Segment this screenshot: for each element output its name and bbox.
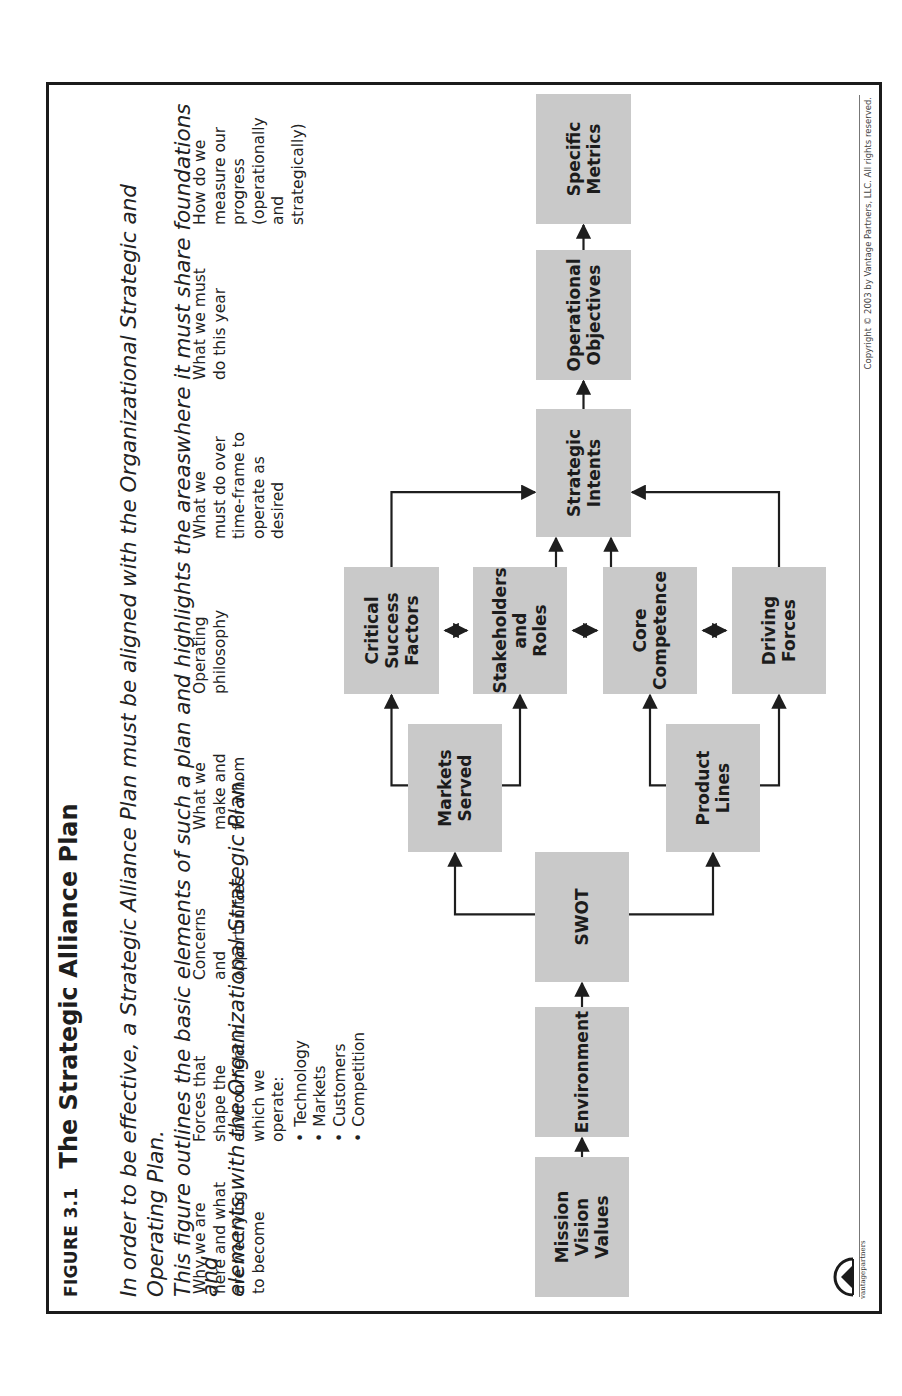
node-label-line: Success — [382, 592, 402, 668]
node-label-line: Critical — [362, 592, 382, 668]
node-specific-metrics: SpecificMetrics — [536, 94, 631, 224]
node-label: MarketsServed — [435, 749, 475, 826]
node-label: SpecificMetrics — [564, 122, 604, 197]
node-label-line: Mission — [552, 1191, 572, 1264]
node-core-competence: CoreCompetence — [603, 567, 697, 694]
node-label-line: Driving — [759, 596, 779, 666]
node-label-line: Metrics — [584, 122, 604, 197]
node-label: OperationalObjectives — [564, 258, 604, 371]
node-label: MissionVisionValues — [552, 1191, 612, 1264]
edge-products-to-core — [650, 695, 666, 785]
node-markets-served: MarketsServed — [408, 724, 502, 852]
node-label-line: Product — [693, 751, 713, 826]
node-label-line: Operational — [564, 258, 584, 371]
node-label-line: Vision — [572, 1191, 592, 1264]
node-swot: SWOT — [535, 852, 629, 982]
node-stakeholders-and-roles: StakeholdersandRoles — [473, 567, 567, 694]
node-label: DrivingForces — [759, 596, 799, 666]
node-label: CoreCompetence — [630, 571, 670, 690]
node-operational-objectives: OperationalObjectives — [536, 250, 631, 380]
node-label: StrategicIntents — [564, 429, 604, 517]
node-strategic-intents: StrategicIntents — [536, 409, 631, 537]
node-environment: Environment — [535, 1007, 629, 1137]
connectors — [49, 85, 879, 1311]
node-label-line: Served — [455, 749, 475, 826]
copyright-text: Copyright © 2003 by Vantage Partners, LL… — [863, 97, 873, 369]
edge-csf-to-intents — [392, 492, 536, 567]
edge-markets-to-csf — [392, 695, 409, 785]
node-label-line: Markets — [435, 749, 455, 826]
node-label-line: Stakeholders — [490, 567, 510, 693]
logo-text: vantagepartners — [859, 1240, 867, 1299]
node-label-line: Values — [592, 1191, 612, 1264]
node-label-line: Factors — [402, 592, 422, 668]
node-label-line: Intents — [584, 429, 604, 517]
edge-driving-to-intents — [632, 492, 779, 567]
node-driving-forces: DrivingForces — [732, 567, 826, 694]
figure-page: FIGURE 3.1 The Strategic Alliance Plan I… — [46, 82, 882, 1314]
node-label-line: Objectives — [584, 258, 604, 371]
node-label: CriticalSuccessFactors — [362, 592, 422, 668]
node-label-line: Competence — [650, 571, 670, 690]
node-label-line: Forces — [779, 596, 799, 666]
node-product-lines: ProductLines — [666, 724, 760, 852]
node-mission-vision-values: MissionVisionValues — [535, 1157, 629, 1297]
node-label-line: Environment — [572, 1011, 592, 1133]
node-label-line: SWOT — [572, 888, 592, 945]
node-label-line: Specific — [564, 122, 584, 197]
node-critical-success-factors: CriticalSuccessFactors — [344, 567, 439, 694]
node-label-line: Strategic — [564, 429, 584, 517]
edge-markets-to-stakeholders — [502, 695, 520, 785]
footer-divider — [859, 95, 860, 1297]
edge-swot-to-products — [629, 853, 713, 914]
node-label: SWOT — [572, 888, 592, 945]
edge-swot-to-markets — [455, 853, 535, 914]
node-label: StakeholdersandRoles — [490, 567, 550, 693]
edge-products-to-driving — [760, 695, 779, 785]
vantage-logo-icon — [813, 1255, 857, 1299]
node-label-line: Core — [630, 571, 650, 690]
node-label: Environment — [572, 1011, 592, 1133]
node-label-line: and — [510, 567, 530, 693]
node-label: ProductLines — [693, 751, 733, 826]
node-label-line: Roles — [530, 567, 550, 693]
node-label-line: Lines — [713, 751, 733, 826]
